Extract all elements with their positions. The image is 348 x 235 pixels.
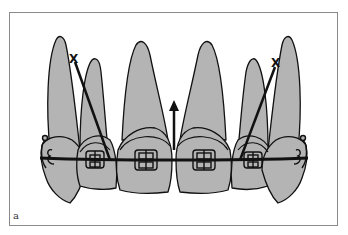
tooth-right-premolar xyxy=(262,137,307,203)
tooth-right-canine xyxy=(268,37,300,150)
arrow-up-icon xyxy=(169,100,179,150)
x-marker-right: X xyxy=(271,56,281,70)
tooth-right-central-root xyxy=(180,42,226,140)
tooth-left-central-root xyxy=(122,42,168,140)
x-marker-left: X xyxy=(69,52,79,66)
dental-diagram: X X xyxy=(0,0,348,235)
panel-label: a xyxy=(13,210,19,221)
archwire xyxy=(40,158,308,160)
